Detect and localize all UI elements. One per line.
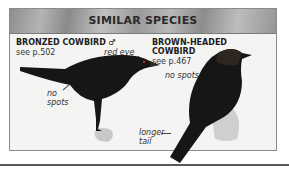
page-divider: [0, 164, 289, 166]
brown-headed-cowbird-illustration: [10, 9, 278, 169]
similar-species-panel: SIMILAR SPECIES BRONZED COWBIRD ♂ see p.…: [9, 8, 277, 151]
